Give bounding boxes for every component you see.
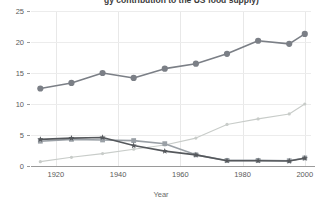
y-tick-label: 0 xyxy=(0,163,24,170)
data-point-series-4-rising-light xyxy=(194,137,197,140)
data-point-series-1-top xyxy=(224,51,230,57)
x-axis-line xyxy=(31,166,315,167)
y-tick-label: 25 xyxy=(0,8,24,15)
data-point-series-1-top xyxy=(37,85,43,91)
data-point-series-1-top xyxy=(131,75,137,81)
series-layer xyxy=(31,11,311,166)
data-point-series-2-declining-square xyxy=(162,141,167,146)
data-point-series-4-rising-light xyxy=(225,123,228,126)
data-point-series-4-rising-light xyxy=(101,152,104,155)
chart-title-band: gy contribution to the US food supply) xyxy=(0,0,322,9)
y-tick-mark xyxy=(27,104,30,105)
y-tick-label: 20 xyxy=(0,39,24,46)
data-point-series-2-declining-square xyxy=(131,138,136,143)
x-tick-label: 1940 xyxy=(100,170,136,179)
series-line-series-4-rising-light xyxy=(40,104,304,162)
plot-area xyxy=(31,11,311,166)
chart-container: gy contribution to the US food supply) 0… xyxy=(0,0,322,211)
data-point-series-4-rising-light xyxy=(132,148,135,151)
series-line-series-2-declining-square xyxy=(40,139,304,160)
data-point-series-3-declining-star xyxy=(131,142,137,148)
data-point-series-4-rising-light xyxy=(70,156,73,159)
data-point-series-1-top xyxy=(255,38,261,44)
x-tick-label: 1960 xyxy=(162,170,198,179)
data-point-series-1-top xyxy=(99,70,105,76)
x-tick-label: 1920 xyxy=(38,170,74,179)
y-tick-mark xyxy=(27,42,30,43)
y-tick-mark xyxy=(27,73,30,74)
data-point-series-3-declining-star xyxy=(162,148,168,154)
x-axis-label: Year xyxy=(0,190,322,199)
series-line-series-1-top xyxy=(40,34,304,89)
y-tick-mark xyxy=(27,11,30,12)
data-point-series-4-rising-light xyxy=(39,160,42,163)
chart-title: gy contribution to the US food supply) xyxy=(104,0,259,5)
data-point-series-1-top xyxy=(302,31,308,37)
data-point-series-4-rising-light xyxy=(257,117,260,120)
y-tick-label: 5 xyxy=(0,132,24,139)
x-tick-label: 2000 xyxy=(287,170,322,179)
data-point-series-1-top xyxy=(162,66,168,72)
x-tick-label: 1980 xyxy=(225,170,261,179)
data-point-series-1-top xyxy=(286,41,292,47)
series-line-series-3-declining-star xyxy=(40,137,304,161)
data-point-series-1-top xyxy=(193,61,199,67)
data-point-series-4-rising-light xyxy=(303,102,306,105)
y-tick-mark xyxy=(27,166,30,167)
y-tick-label: 15 xyxy=(0,70,24,77)
y-tick-mark xyxy=(27,135,30,136)
data-point-series-4-rising-light xyxy=(288,112,291,115)
data-point-series-1-top xyxy=(68,80,74,86)
y-tick-label: 10 xyxy=(0,101,24,108)
